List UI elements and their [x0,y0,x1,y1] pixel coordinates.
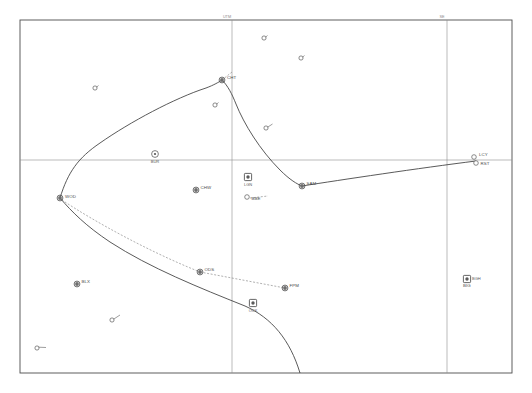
waypoint-symbol-core [283,286,287,290]
waypoint-ods[interactable]: ODS [197,267,214,275]
minor-waypoint-circle [110,318,114,322]
waypoint-cht[interactable]: CHT [219,75,236,83]
waypoint-rst[interactable]: RST [474,161,490,166]
chart-svg: UTMSE CHTBURWODCHWLGNBBESAMLCYRSTBGHBIGO… [0,0,532,393]
waypoint-symbol-core [58,196,62,200]
route-lines-group [60,80,476,373]
waypoint-sam[interactable]: SAM [299,181,316,189]
waypoint-label-lgn: LGN [244,182,252,187]
waypoint-label-bur: BUR [151,159,160,164]
waypoint-symbol-dot [154,153,156,155]
minor-waypoint-mp-3 [93,86,99,91]
waypoint-label-fpm: FPM [290,283,300,288]
minor-waypoint-circle [264,126,268,130]
waypoint-wod[interactable]: WOD [57,194,76,201]
route-dashed-ods-fpm [200,272,285,288]
waypoint-label-sam: SAM [307,181,317,186]
minor-waypoint-tick [217,103,219,105]
waypoint-lcy[interactable]: LCY [472,152,488,160]
minor-waypoint-tick [266,36,268,38]
waypoint-big[interactable]: BIG [463,283,471,288]
waypoint-bbe[interactable]: BBE [245,195,261,201]
route-track-sam-rst [302,161,476,186]
waypoints-group: CHTBURWODCHWLGNBBESAMLCYRSTBGHBIGODSFPMO… [57,75,490,314]
route-dashed-wod-odd [62,200,200,272]
waypoint-label-wod: WOD [65,194,76,199]
waypoint-symbol-open [472,155,477,160]
waypoint-label-ods: ODS [205,267,215,272]
minor-waypoint-mp-4 [213,103,219,108]
waypoint-ock[interactable]: OCK [249,299,258,313]
route-track-south [60,198,300,373]
waypoint-symbol-core [465,277,468,280]
waypoint-symbol-open [245,195,250,200]
waypoint-symbol-open [474,161,479,166]
waypoint-symbol-core [194,188,198,192]
minor-waypoint-tick [114,315,120,319]
waypoint-label-ock: OCK [249,308,258,313]
minor-waypoint-tick [303,56,305,58]
minor-waypoint-circle [262,36,266,40]
waypoint-symbol-core [300,184,304,188]
gridline-label-meridian-1: UTM [223,15,231,19]
route-track-west [60,80,222,198]
waypoint-label-bgh: BGH [472,276,481,281]
waypoint-bgh[interactable]: BGH [463,275,480,282]
minor-waypoint-tick [97,86,99,88]
waypoint-symbol-core [75,282,79,286]
waypoint-bur[interactable]: BUR [151,151,160,164]
waypoint-label-blx: BLX [82,279,91,284]
waypoint-fpm[interactable]: FPM [282,283,299,291]
minor-waypoint-tick [268,124,273,127]
waypoint-label-rst: RST [481,161,490,166]
minor-waypoint-mp-5 [264,124,273,130]
route-track-cht-sam [222,80,302,186]
waypoint-blx[interactable]: BLX [74,279,90,287]
waypoint-symbol-core [246,175,249,178]
minor-waypoint-circle [299,56,303,60]
gridline-label-meridian-2: SE [439,15,445,19]
waypoint-symbol-core [198,270,202,274]
minor-waypoint-mp-2 [299,56,305,61]
waypoint-chw[interactable]: CHW [193,185,212,193]
minor-waypoint-mp-1 [262,36,268,41]
waypoint-lgn[interactable]: LGN [244,173,252,186]
waypoint-symbol-core [220,78,224,82]
navigation-chart-canvas: UTMSE CHTBURWODCHWLGNBBESAMLCYRSTBGHBIGO… [0,0,532,393]
minor-waypoint-circle [213,103,217,107]
waypoint-label-lcy: LCY [479,152,488,157]
waypoint-label-big: BIG [463,283,471,288]
waypoint-symbol-core [251,301,254,304]
minor-waypoint-circle [35,346,39,350]
minor-waypoint-circle [93,86,97,90]
waypoint-label-cht: CHT [227,75,237,80]
waypoint-label-chw: CHW [201,185,213,190]
minor-waypoint-mp-6 [110,315,120,322]
waypoint-label-bbe: BBE [252,196,261,201]
minor-waypoint-mp-7 [35,346,46,350]
